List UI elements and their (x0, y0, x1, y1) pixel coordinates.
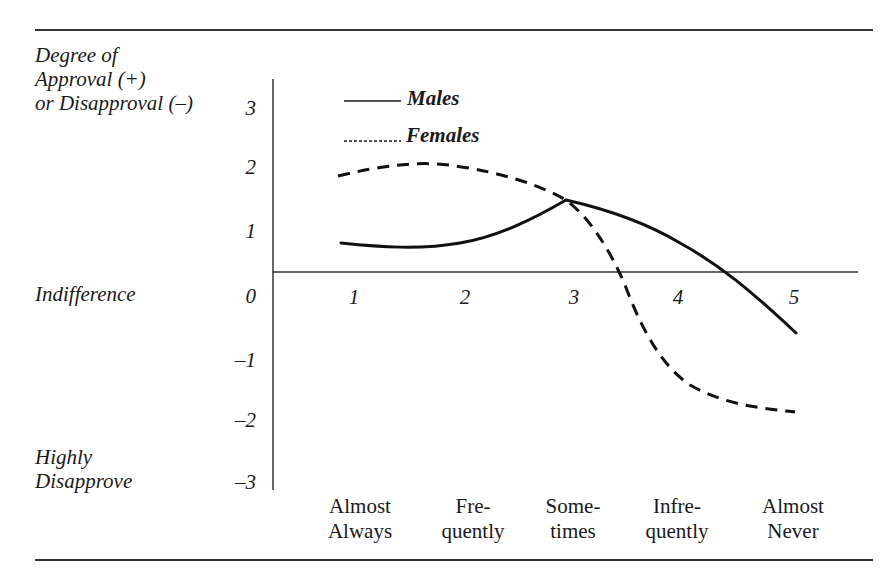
plot-area (0, 0, 895, 581)
males-line (341, 200, 796, 333)
